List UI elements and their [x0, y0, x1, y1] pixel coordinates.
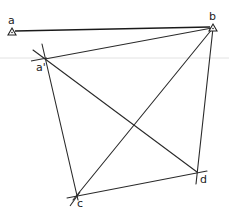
line-aprime-b [45, 28, 212, 59]
line-aprime-c [42, 44, 78, 200]
station-a-triangle-icon [8, 28, 16, 35]
label-d: d [200, 173, 207, 186]
label-c: c [77, 197, 83, 210]
label-b: b [209, 10, 216, 23]
label-a-prime: a' [36, 61, 46, 74]
label-a: a [8, 14, 15, 27]
station-b-dot [212, 28, 214, 30]
station-a-dot [11, 32, 13, 34]
triangulation-diagram: a b a' c d [0, 0, 229, 219]
line-b-d [196, 28, 213, 184]
station-b-triangle-icon [209, 24, 217, 31]
line-c-d [67, 171, 207, 198]
line-a-b [15, 27, 210, 31]
